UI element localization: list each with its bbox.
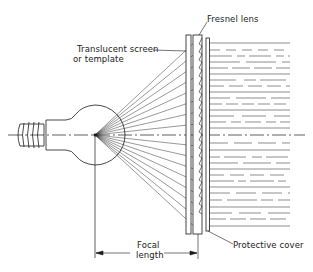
parallel-output-rays bbox=[210, 43, 290, 226]
protective-cover-label: Protective cover bbox=[233, 240, 304, 250]
protective-cover bbox=[206, 38, 210, 231]
translucent-screen-label-line1: Translucent screen bbox=[77, 44, 159, 54]
focal-length-label-line2: length bbox=[136, 250, 164, 260]
cropped-caption bbox=[0, 266, 313, 272]
fresnel-lens-leader bbox=[199, 22, 207, 35]
light-rays bbox=[95, 40, 197, 229]
translucent-screen-label-line2: or template bbox=[73, 54, 124, 64]
focal-length-label-line1: Focal bbox=[137, 240, 160, 250]
protective-cover-leader bbox=[208, 231, 233, 244]
fresnel-lens-diagram bbox=[0, 0, 313, 272]
translucent-screen bbox=[186, 35, 191, 234]
fresnel-lens-label: Fresnel lens bbox=[207, 14, 259, 24]
